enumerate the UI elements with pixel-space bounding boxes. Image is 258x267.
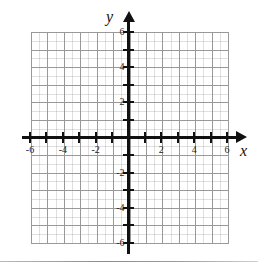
y-axis-tick bbox=[123, 119, 134, 121]
x-axis-tick bbox=[111, 132, 113, 143]
x-axis-line bbox=[22, 136, 238, 139]
x-axis-tick bbox=[226, 132, 228, 143]
y-axis-tick bbox=[123, 207, 134, 209]
x-axis-tick bbox=[95, 132, 97, 143]
x-tick-label: -6 bbox=[26, 145, 34, 155]
y-tick-label: -6 bbox=[107, 238, 125, 248]
x-tick-label: -2 bbox=[91, 145, 99, 155]
y-axis-label: y bbox=[106, 8, 113, 26]
y-axis-line bbox=[127, 22, 130, 254]
x-axis-tick bbox=[210, 132, 212, 143]
arrow-up-icon bbox=[123, 11, 135, 22]
y-tick-label: 2 bbox=[107, 97, 125, 107]
x-axis-tick bbox=[177, 132, 179, 143]
y-axis-tick bbox=[123, 242, 134, 244]
y-axis-tick bbox=[123, 31, 134, 33]
y-axis-tick bbox=[123, 224, 134, 226]
x-tick-label: 2 bbox=[159, 145, 164, 155]
x-tick-label: -4 bbox=[59, 145, 67, 155]
x-axis-tick bbox=[78, 132, 80, 143]
x-axis-label: x bbox=[240, 142, 247, 160]
y-tick-label: -2 bbox=[107, 168, 125, 178]
x-axis-tick bbox=[29, 132, 31, 143]
y-axis-tick bbox=[123, 189, 134, 191]
y-axis-tick bbox=[123, 101, 134, 103]
x-axis-tick bbox=[45, 132, 47, 143]
y-tick-label: 4 bbox=[107, 62, 125, 72]
y-axis-tick bbox=[123, 66, 134, 68]
y-tick-label: 6 bbox=[107, 27, 125, 37]
y-axis-tick bbox=[123, 84, 134, 86]
y-axis-tick bbox=[123, 154, 134, 156]
x-axis-tick bbox=[193, 132, 195, 143]
x-tick-label: 6 bbox=[225, 145, 230, 155]
y-axis-tick bbox=[123, 172, 134, 174]
y-axis-tick bbox=[123, 49, 134, 51]
y-tick-label: -4 bbox=[107, 203, 125, 213]
coordinate-plane-figure: -6-4-2246 642-2-4-6 x y bbox=[0, 0, 258, 267]
x-axis-tick bbox=[160, 132, 162, 143]
page-separator-rule bbox=[0, 261, 258, 262]
x-axis-tick bbox=[144, 132, 146, 143]
x-tick-label: 4 bbox=[192, 145, 197, 155]
x-axis-tick bbox=[62, 132, 64, 143]
